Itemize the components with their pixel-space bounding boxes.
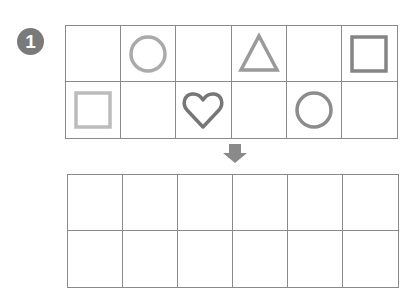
source-cell-r2-c2 [121,82,176,138]
answer-cell-r1-c4[interactable] [233,175,288,231]
answer-cell-r2-c3[interactable] [178,231,233,287]
source-cell-r2-c1 [66,82,121,138]
triangle-icon [237,32,281,76]
problem-number-badge: 1 [17,28,44,55]
source-cell-r1-c1 [66,26,121,82]
answer-cell-r1-c6[interactable] [343,175,398,231]
answer-cell-r1-c3[interactable] [178,175,233,231]
answer-cell-r2-c6[interactable] [343,231,398,287]
down-arrow-icon [222,144,248,164]
answer-cell-r1-c5[interactable] [288,175,343,231]
source-cell-r1-c4 [232,26,287,82]
square-icon [71,88,115,132]
source-cell-r1-c2 [121,26,176,82]
answer-cell-r2-c5[interactable] [288,231,343,287]
circle-icon [126,32,170,76]
source-cell-r2-c5 [287,82,342,138]
source-cell-r1-c5 [287,26,342,82]
answer-cell-r2-c2[interactable] [123,231,178,287]
answer-cell-r2-c4[interactable] [233,231,288,287]
source-cell-r1-c6 [342,26,397,82]
square-icon [347,32,391,76]
source-shape-grid [65,25,398,139]
circle-icon [292,88,336,132]
answer-cell-r1-c1[interactable] [68,175,123,231]
answer-cell-r2-c1[interactable] [68,231,123,287]
source-cell-r1-c3 [176,26,231,82]
source-cell-r2-c4 [232,82,287,138]
answer-grid [67,174,399,288]
heart-icon [181,88,225,132]
answer-cell-r1-c2[interactable] [123,175,178,231]
source-cell-r2-c3 [176,82,231,138]
source-cell-r2-c6 [342,82,397,138]
